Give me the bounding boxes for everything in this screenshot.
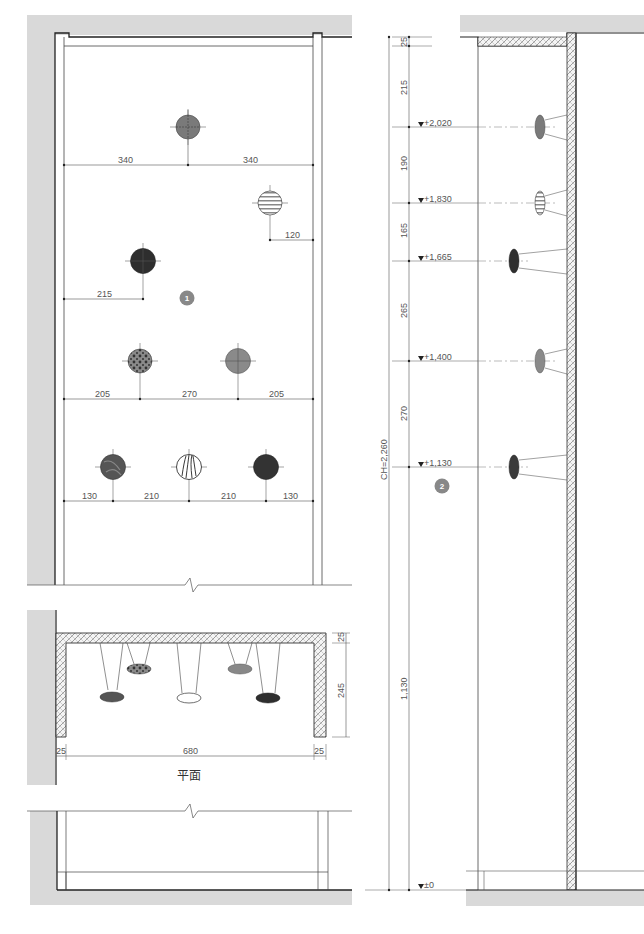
seg-215: 215 bbox=[399, 80, 409, 95]
globe-spotted bbox=[122, 343, 158, 399]
dim-130-left: 130 bbox=[82, 491, 97, 501]
total-height-ch: CH=2,260 bbox=[379, 439, 389, 480]
callout-badge-2: 2 bbox=[435, 479, 450, 494]
plan-lamp-5 bbox=[256, 643, 280, 703]
dim-205-right: 205 bbox=[269, 389, 284, 399]
left-wall bbox=[27, 15, 55, 585]
seg-190: 190 bbox=[399, 156, 409, 171]
seg-265: 265 bbox=[399, 303, 409, 318]
plan-dim-245: 245 bbox=[336, 683, 346, 698]
dim-205-left: 205 bbox=[95, 389, 110, 399]
level-label-2020: +2,020 bbox=[424, 118, 452, 128]
front-elevation: 340 340 120 215 bbox=[27, 15, 352, 592]
dim-215: 215 bbox=[97, 289, 112, 299]
side-section: 25 215 190 165 265 270 1,130 CH=2,260 +2… bbox=[365, 15, 644, 906]
level-label-1830: +1,830 bbox=[424, 194, 452, 204]
plan-dim-680: 680 bbox=[183, 746, 198, 756]
front-elevation-base bbox=[27, 804, 352, 905]
seg-270: 270 bbox=[399, 406, 409, 421]
plan-left-wall bbox=[27, 610, 55, 785]
plan-dim-25-top: 25 bbox=[336, 632, 346, 642]
seg-1130: 1,130 bbox=[399, 677, 409, 700]
plan-dim-25-left: 25 bbox=[56, 746, 66, 756]
level-1665: +1,665 bbox=[392, 249, 567, 274]
level-label-1400: +1,400 bbox=[424, 352, 452, 362]
seg-165: 165 bbox=[399, 223, 409, 238]
svg-text:1: 1 bbox=[185, 294, 190, 303]
globe-marbled bbox=[95, 449, 131, 501]
dim-120: 120 bbox=[285, 230, 300, 240]
level-label-1665: +1,665 bbox=[424, 252, 452, 262]
plan-lamp-1 bbox=[100, 643, 124, 702]
dim-340-right: 340 bbox=[243, 155, 258, 165]
dim-210-left: 210 bbox=[144, 491, 159, 501]
level-label-0: ±0 bbox=[424, 880, 434, 890]
plan-dim-25-right: 25 bbox=[314, 746, 324, 756]
level-1830: +1,830 bbox=[392, 190, 567, 216]
dim-270: 270 bbox=[182, 389, 197, 399]
globe-leaf-pattern bbox=[171, 449, 207, 501]
plan-title: 平面 bbox=[177, 769, 201, 783]
globe-gray-mid bbox=[220, 343, 256, 399]
globe-dark-right bbox=[248, 449, 284, 501]
svg-text:2: 2 bbox=[440, 482, 445, 491]
seg-25: 25 bbox=[399, 37, 409, 47]
level-label-1130: +1,130 bbox=[424, 458, 452, 468]
plan-lamp-3 bbox=[177, 643, 201, 703]
level-0: ±0 bbox=[418, 880, 434, 890]
dim-340-left: 340 bbox=[118, 155, 133, 165]
dim-130-right: 130 bbox=[283, 491, 298, 501]
globe-striped bbox=[252, 185, 288, 240]
plan-view: 25 680 25 25 245 平面 bbox=[27, 610, 350, 785]
plan-lamp-4 bbox=[228, 643, 252, 674]
ceiling-slab bbox=[27, 15, 352, 35]
globe-dark-left bbox=[125, 243, 161, 299]
level-1400: +1,400 bbox=[392, 349, 567, 374]
level-1130: +1,130 bbox=[392, 455, 567, 480]
globe-gray-top bbox=[170, 109, 206, 145]
level-2020: +2,020 bbox=[392, 115, 567, 140]
callout-badge-1: 1 bbox=[180, 291, 195, 306]
plan-lamp-2 bbox=[127, 643, 151, 674]
drawing-canvas: 340 340 120 215 bbox=[0, 0, 644, 934]
dim-210-right: 210 bbox=[221, 491, 236, 501]
